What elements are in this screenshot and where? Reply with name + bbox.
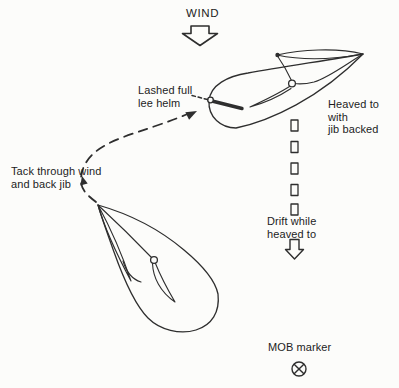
drift-dash <box>291 204 298 215</box>
jib-sheet-fairlead-dot <box>275 53 279 57</box>
tack-label: Tack through wind and back jib <box>11 165 101 190</box>
mob-marker-icon <box>292 362 306 376</box>
drift-dash <box>291 120 298 131</box>
sailing-heave-to-diagram: WIND Lashed full lee helm Heaved to with… <box>0 0 399 388</box>
tacking-boat <box>98 205 218 332</box>
drift-dash <box>291 163 298 174</box>
mast-circle <box>151 257 158 264</box>
drift-dash <box>291 142 298 153</box>
jib-sail-backed <box>277 50 363 59</box>
drift-dash <box>291 185 298 196</box>
heaved-to-label: Heaved to with jib backed <box>328 98 399 136</box>
wind-arrow-icon <box>183 26 218 46</box>
mast-circle <box>289 80 296 87</box>
main-sail-sliver <box>250 87 291 108</box>
wind-label: WIND <box>186 7 219 20</box>
main-sail-crescent <box>153 264 176 303</box>
tack-path-end-arrowhead <box>185 111 197 120</box>
mob-marker-label: MOB marker <box>268 341 331 354</box>
rudder-head-circle <box>208 97 214 103</box>
drift-label: Drift while heaved to <box>267 215 316 240</box>
diagram-canvas <box>0 0 399 388</box>
lashed-tiller <box>212 101 242 109</box>
lashed-helm-label: Lashed full lee helm <box>138 84 192 109</box>
lashing-dashes <box>192 96 209 100</box>
drift-arrow-icon <box>286 240 304 260</box>
